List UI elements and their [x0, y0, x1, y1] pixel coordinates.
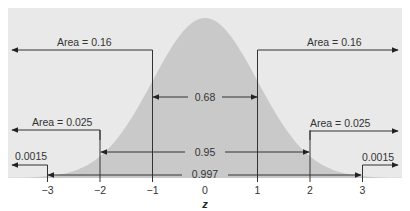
interval-label-68: 0.68 — [195, 91, 216, 103]
interval-label-997: 0.997 — [192, 168, 218, 180]
x-tick-label: 1 — [255, 184, 261, 196]
x-tick-label: 3 — [360, 184, 366, 196]
x-axis-ticks: −3 −2 −1 0 1 2 3 — [42, 184, 366, 196]
tail-label-left-2sd: Area = 0.025 — [32, 116, 93, 128]
x-tick-label: 2 — [307, 184, 313, 196]
x-tick-label: −1 — [147, 184, 159, 196]
tail-label-right-1sd: Area = 0.16 — [307, 36, 362, 48]
tail-label-left-3sd: 0.0015 — [15, 150, 47, 162]
tail-label-right-3sd: 0.0015 — [362, 151, 394, 163]
x-tick-label: −3 — [42, 184, 54, 196]
x-tick-label: 0 — [202, 184, 208, 196]
x-axis-label: z — [201, 198, 208, 210]
tail-label-right-2sd: Area = 0.025 — [310, 117, 371, 129]
normal-distribution-chart: Area = 0.16 Area = 0.16 Area = 0.025 Are… — [0, 0, 410, 211]
interval-label-95: 0.95 — [195, 146, 216, 158]
x-tick-label: −2 — [94, 184, 106, 196]
tail-label-left-1sd: Area = 0.16 — [57, 36, 112, 48]
